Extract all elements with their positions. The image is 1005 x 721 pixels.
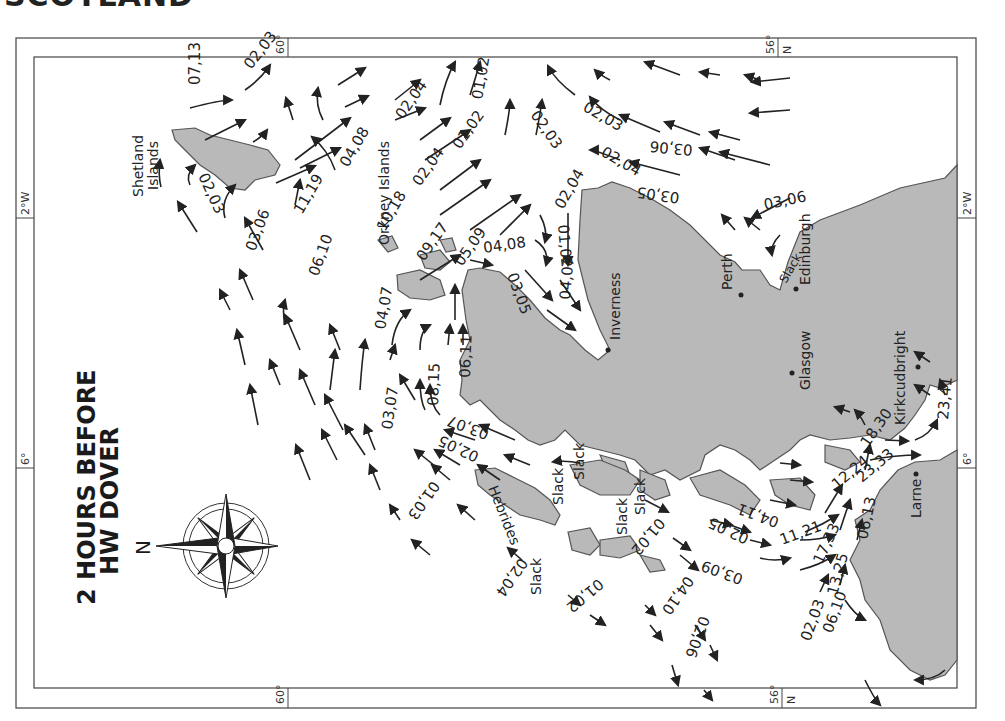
tidal-stream-map: 60° 56° N 60° 56° N 2°W 6° 2°W 6° bbox=[0, 0, 1005, 721]
rate-label: 01,02 bbox=[627, 514, 668, 558]
grid-label-n-bottom: N bbox=[785, 696, 798, 704]
label-glasgow: Glasgow bbox=[797, 330, 813, 390]
rate-label: 08,15 bbox=[424, 363, 443, 407]
rate-label: 01,03 bbox=[404, 478, 443, 524]
grid-label-60-bottom: 60° bbox=[274, 685, 287, 705]
label-perth: Perth bbox=[719, 253, 735, 290]
grid-label-2w-left: 2°W bbox=[19, 192, 32, 215]
rate-label: 02,04 bbox=[598, 143, 644, 180]
label-inverness: Inverness bbox=[607, 273, 623, 340]
rate-label: 03,06 bbox=[242, 207, 274, 254]
rate-label: 11,19 bbox=[290, 171, 327, 217]
rate-label: 03,06 bbox=[762, 187, 808, 214]
label-larne: Larne bbox=[908, 479, 924, 518]
rate-label: 06,10 bbox=[305, 232, 337, 279]
rate-label: 02,03 bbox=[527, 107, 566, 153]
grid-label-n-top: N bbox=[781, 46, 794, 54]
rate-label: 04,07 bbox=[371, 285, 396, 330]
slack-label: Slack bbox=[614, 497, 630, 535]
kirkcudbright-dot bbox=[916, 365, 921, 370]
compass-n-label: N bbox=[131, 540, 155, 555]
slack-label: Slack bbox=[571, 442, 587, 480]
rate-label: 04,07 bbox=[556, 256, 578, 300]
grid-label-6-left: 6° bbox=[19, 453, 32, 466]
rate-label: 02,04 bbox=[392, 77, 431, 123]
label-shetland-islands: Islands bbox=[145, 141, 161, 190]
inverness-dot bbox=[606, 348, 611, 353]
rate-label: 03,09 bbox=[699, 557, 746, 589]
rate-label: 23,41 bbox=[934, 376, 956, 420]
rate-label: 01,02 bbox=[468, 55, 493, 100]
rate-label: 03,07 bbox=[378, 386, 402, 431]
compass-rose-icon bbox=[156, 489, 283, 602]
grid-label-6-right: 6° bbox=[961, 453, 974, 466]
slack-label: Slack bbox=[550, 467, 566, 505]
label-shetland: Shetland bbox=[130, 135, 146, 197]
grid-label-2w-right: 2°W bbox=[961, 192, 974, 215]
slack-label: Slack bbox=[632, 477, 648, 515]
slack-label: Slack bbox=[528, 557, 544, 595]
rate-label: 02,04 bbox=[409, 144, 448, 190]
grid-label-56-top: 56° bbox=[764, 35, 777, 55]
rate-label: 02,03 bbox=[580, 98, 626, 135]
grid-label-56-bottom: 56° bbox=[768, 685, 781, 705]
larne-dot bbox=[914, 472, 919, 477]
glasgow-dot bbox=[790, 371, 795, 376]
rate-label: 06,11 bbox=[456, 335, 475, 379]
perth-dot bbox=[739, 293, 744, 298]
rate-label: 04,11 bbox=[735, 500, 782, 532]
rate-label: 03,06 bbox=[649, 137, 693, 159]
label-edinburgh: Edinburgh bbox=[797, 213, 813, 285]
rate-label: 07,13 bbox=[186, 42, 204, 85]
rate-label: 01,02 bbox=[449, 107, 488, 153]
rate-label: 04,10 bbox=[658, 573, 697, 619]
edinburgh-dot bbox=[794, 287, 799, 292]
rate-label: 04,08 bbox=[482, 233, 527, 257]
rate-label: 02,06 bbox=[682, 614, 714, 661]
map-title-line2: HW DOVER bbox=[96, 427, 124, 575]
rate-label: 02,04 bbox=[492, 555, 531, 601]
label-kirkcudbright: Kirkcudbright bbox=[892, 330, 908, 425]
rate-label: 04,08 bbox=[336, 124, 373, 170]
